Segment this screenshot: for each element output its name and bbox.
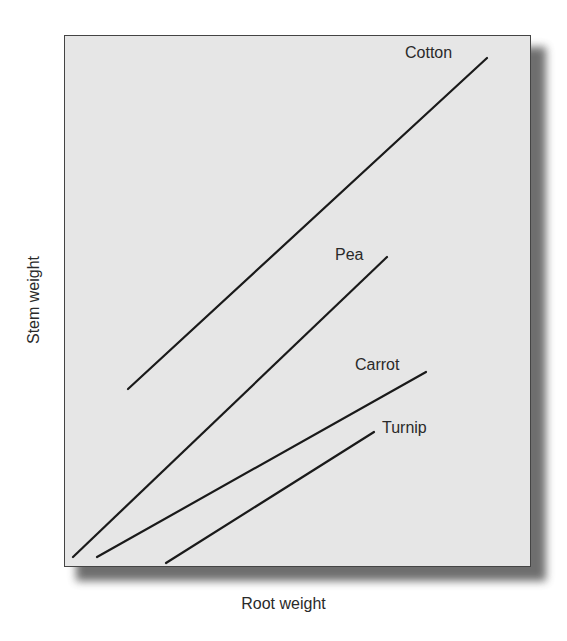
series-label-pea: Pea xyxy=(335,246,363,264)
y-axis-label: Stem weight xyxy=(25,256,43,344)
series-label-carrot: Carrot xyxy=(355,356,399,374)
series-line-carrot xyxy=(97,372,426,557)
x-axis-label: Root weight xyxy=(0,595,567,613)
series-label-cotton: Cotton xyxy=(405,44,452,62)
series-line-turnip xyxy=(166,432,374,563)
series-line-pea xyxy=(73,257,387,557)
plot-lines xyxy=(0,0,567,641)
series-label-turnip: Turnip xyxy=(382,419,427,437)
series-line-cotton xyxy=(128,58,487,389)
